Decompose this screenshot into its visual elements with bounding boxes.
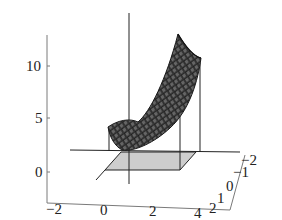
surface-plot: 10 5 0 −2 0 2 4 2 1 0 −1 −2 [0,0,282,220]
y-tick-label: 2 [209,200,217,216]
x-tick-label: 0 [100,202,108,218]
z-tick-labels: 10 5 0 [26,58,43,180]
y-tick-label: −2 [241,152,257,168]
base-diagonal [96,170,105,180]
surface-mesh [108,34,201,150]
y-tick-label: 1 [217,190,225,206]
y-tick-labels: 2 1 0 −1 −2 [209,152,257,216]
z-tick-label: 10 [26,58,41,74]
z-tick-label: 5 [35,110,43,126]
z-tick-label: 0 [35,164,43,180]
base-projection [105,152,196,170]
x-tick-label: 4 [194,205,202,220]
x-axis [47,203,230,210]
x-tick-label: 2 [149,203,157,219]
x-tick-label: −2 [46,201,62,217]
y-tick-label: 0 [226,178,234,194]
